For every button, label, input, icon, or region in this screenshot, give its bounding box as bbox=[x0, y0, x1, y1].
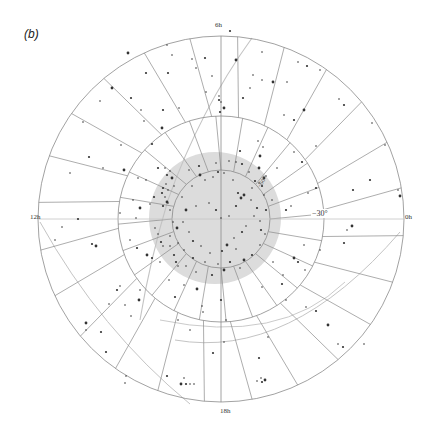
star-point bbox=[371, 122, 373, 124]
star-point bbox=[293, 257, 296, 260]
star-point bbox=[195, 271, 197, 273]
star-point bbox=[77, 218, 79, 220]
star-point bbox=[235, 59, 238, 62]
star-point bbox=[218, 99, 220, 101]
star-point bbox=[85, 322, 88, 325]
star-point bbox=[91, 243, 93, 245]
star-point bbox=[120, 144, 122, 146]
star-point bbox=[351, 225, 354, 228]
star-point bbox=[256, 380, 258, 382]
star-point bbox=[259, 244, 261, 246]
star-point bbox=[250, 199, 252, 201]
star-point bbox=[123, 169, 126, 172]
star-point bbox=[119, 212, 121, 214]
star-point bbox=[54, 239, 56, 241]
star-point bbox=[272, 261, 274, 263]
star-point bbox=[261, 381, 263, 383]
star-point bbox=[169, 235, 171, 237]
ra-label-0h: 0h bbox=[405, 213, 412, 221]
star-point bbox=[384, 144, 386, 146]
star-point bbox=[303, 244, 305, 246]
star-point bbox=[290, 205, 292, 207]
star-point bbox=[146, 254, 149, 257]
star-point bbox=[233, 237, 235, 239]
star-point bbox=[169, 170, 171, 172]
star-point bbox=[127, 52, 130, 55]
star-point bbox=[252, 74, 254, 76]
star-point bbox=[99, 100, 101, 102]
star-point bbox=[253, 215, 255, 217]
star-point bbox=[315, 310, 317, 312]
star-point bbox=[162, 245, 164, 247]
star-point bbox=[223, 107, 226, 110]
star-point bbox=[119, 285, 121, 287]
star-point bbox=[177, 319, 179, 321]
star-point bbox=[132, 199, 134, 201]
star-point bbox=[249, 87, 251, 89]
star-point bbox=[258, 357, 260, 359]
star-point bbox=[88, 156, 90, 158]
star-point bbox=[181, 196, 183, 198]
star-point bbox=[342, 346, 344, 348]
star-point bbox=[172, 221, 174, 223]
ra-label-6h: 6h bbox=[215, 21, 222, 29]
star-point bbox=[237, 192, 239, 194]
star-point bbox=[201, 305, 203, 307]
star-point bbox=[220, 299, 222, 301]
star-point bbox=[166, 174, 168, 176]
star-point bbox=[315, 145, 317, 147]
star-point bbox=[261, 286, 263, 288]
star-point bbox=[235, 161, 237, 163]
star-point bbox=[149, 203, 151, 205]
star-point bbox=[171, 177, 174, 180]
star-point bbox=[191, 185, 193, 187]
star-point bbox=[282, 274, 284, 276]
star-point bbox=[111, 87, 114, 90]
star-point bbox=[228, 160, 230, 162]
star-point bbox=[264, 379, 267, 382]
star-point bbox=[264, 233, 266, 235]
star-point bbox=[285, 299, 287, 301]
star-point bbox=[195, 67, 197, 69]
coordinate-grid bbox=[38, 36, 404, 402]
star-point bbox=[69, 172, 71, 174]
star-point bbox=[108, 303, 110, 305]
star-point bbox=[261, 79, 263, 81]
star-point bbox=[221, 250, 223, 252]
shaded-zone bbox=[149, 152, 281, 284]
star-point bbox=[130, 315, 132, 317]
star-point bbox=[283, 114, 285, 116]
star-point bbox=[182, 221, 184, 223]
star-point bbox=[153, 196, 155, 198]
star-point bbox=[369, 179, 371, 181]
star-point bbox=[251, 254, 253, 256]
star-point bbox=[305, 306, 307, 308]
star-point bbox=[139, 289, 141, 291]
ra-label-18h: 18h bbox=[220, 407, 231, 415]
star-point bbox=[338, 98, 340, 100]
star-point bbox=[223, 341, 225, 343]
star-point bbox=[157, 167, 159, 169]
star-point bbox=[212, 176, 214, 178]
star-point bbox=[82, 121, 84, 123]
star-point bbox=[95, 245, 98, 248]
star-point bbox=[137, 177, 139, 179]
star-point bbox=[192, 240, 194, 242]
star-point bbox=[251, 187, 253, 189]
star-point bbox=[337, 343, 339, 345]
star-point bbox=[204, 261, 206, 263]
star-point bbox=[211, 274, 213, 276]
star-point bbox=[202, 311, 204, 313]
star-point bbox=[100, 331, 102, 333]
star-point bbox=[239, 150, 241, 152]
star-point bbox=[189, 329, 191, 331]
star-point bbox=[352, 189, 354, 191]
star-point bbox=[180, 383, 183, 386]
star-point bbox=[183, 377, 185, 379]
star-point bbox=[254, 180, 256, 182]
star-point bbox=[167, 72, 169, 74]
star-point bbox=[135, 217, 137, 219]
star-point bbox=[235, 205, 237, 207]
star-point bbox=[217, 263, 219, 265]
star-point bbox=[226, 244, 229, 247]
